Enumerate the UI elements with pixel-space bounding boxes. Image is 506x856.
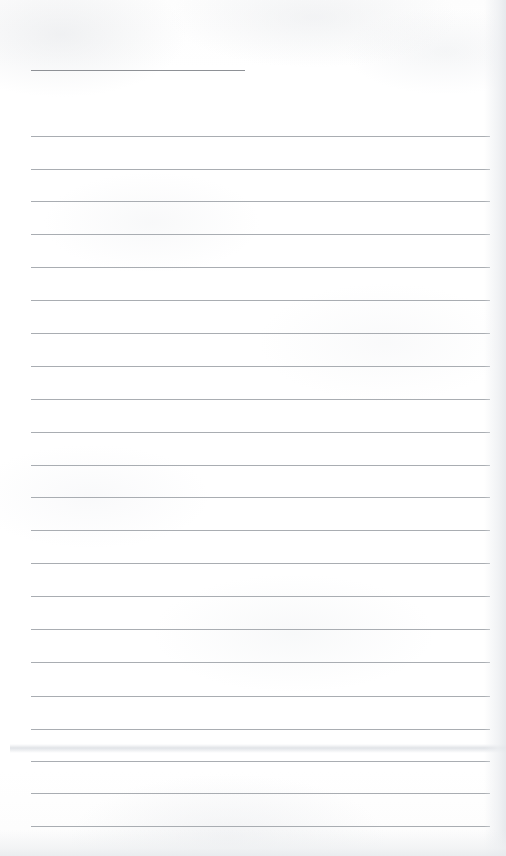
ruled-line <box>31 201 490 202</box>
ruled-line <box>31 662 490 663</box>
ruled-line <box>31 596 490 597</box>
page-edge-shadow-bottom <box>0 830 506 856</box>
ruled-line <box>31 465 490 466</box>
ruled-line <box>31 729 490 730</box>
ruled-line <box>31 234 490 235</box>
scanner-smudge-band <box>10 744 506 753</box>
ruled-line <box>31 497 490 498</box>
ruled-line <box>31 563 490 564</box>
ruled-line <box>31 136 490 137</box>
ruled-line <box>31 300 490 301</box>
header-rule <box>31 70 245 71</box>
ruled-line <box>31 366 490 367</box>
ruled-line <box>31 530 490 531</box>
ruled-line <box>31 333 490 334</box>
scanned-notebook-page <box>0 0 506 856</box>
ruled-line <box>31 399 490 400</box>
ruled-line <box>31 432 490 433</box>
ruled-line <box>31 267 490 268</box>
ruled-line <box>31 761 490 762</box>
ruled-line <box>31 793 490 794</box>
page-edge-shadow-right <box>484 0 506 856</box>
ruled-line <box>31 629 490 630</box>
ruled-line <box>31 696 490 697</box>
ruled-line <box>31 826 490 827</box>
ruled-line <box>31 169 490 170</box>
